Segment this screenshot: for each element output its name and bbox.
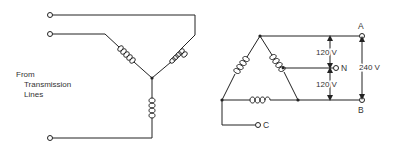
voltage-lower-label: 120 V: [316, 80, 338, 89]
coil-bottom-icon: [149, 98, 155, 118]
label-b: B: [358, 105, 364, 115]
wire-line-1: [53, 15, 196, 50]
input-terminal-2: [48, 32, 53, 37]
terminal-c: [256, 123, 261, 128]
circuit-diagram: From Transmission Lines A N B: [0, 0, 400, 149]
terminal-a: [360, 34, 365, 39]
label-c: C: [263, 120, 269, 130]
line-c-wire: [222, 100, 256, 125]
wire-line-3: [53, 118, 153, 138]
coil-right-icon: [170, 49, 187, 63]
input-terminal-3: [48, 136, 53, 141]
wye-transformer: From Transmission Lines: [16, 13, 195, 141]
caption-line-1: From: [16, 70, 35, 79]
terminal-b: [360, 98, 365, 103]
caption-line-3: Lines: [24, 90, 43, 99]
coil-delta-bottom-icon: [250, 97, 270, 103]
coil-left-icon: [118, 46, 135, 63]
caption-line-2: Transmission: [24, 80, 71, 89]
voltage-total-label: 240 V: [359, 63, 381, 72]
input-terminal-1: [48, 13, 53, 18]
coil-delta-left-icon: [234, 56, 249, 73]
delta-transformer: A N B C 120 V 120 V 240 V: [220, 21, 380, 130]
label-a: A: [358, 21, 364, 31]
terminal-n: [334, 66, 339, 71]
label-n: N: [341, 63, 347, 73]
voltage-upper-label: 120 V: [316, 48, 338, 57]
wire-line-2: [53, 34, 120, 47]
